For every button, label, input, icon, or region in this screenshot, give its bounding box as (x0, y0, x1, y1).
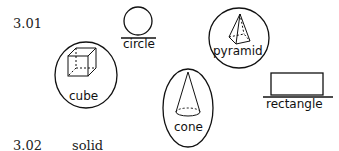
cone-label: cone (174, 120, 203, 134)
rectangle-label: rectangle (266, 97, 323, 111)
pyramid-label: pyramid (213, 44, 263, 58)
cone-icon (176, 72, 200, 116)
answer-text: solid (72, 138, 103, 151)
circle-label: circle (123, 37, 155, 51)
circle-shape (124, 7, 152, 35)
cube-label: cube (69, 89, 98, 103)
item-number-3-01: 3.01 (13, 16, 42, 31)
shapes-figure (0, 0, 339, 151)
pyramid-icon (229, 14, 250, 44)
cube-icon (68, 48, 96, 76)
item-number-3-02: 3.02 (13, 138, 42, 151)
rectangle-shape (271, 73, 323, 95)
